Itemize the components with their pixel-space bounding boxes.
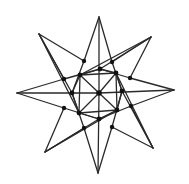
edge-T2-B1	[130, 78, 174, 90]
edge-T4-C	[98, 93, 99, 173]
edge-T6-B6	[17, 79, 64, 93]
edge-T0-B7	[84, 17, 99, 61]
edge-group	[17, 17, 174, 173]
outer-node-B2	[129, 104, 133, 108]
inner-node-A4	[97, 117, 102, 122]
edge-T0-B0	[99, 17, 112, 62]
inner-node-A6	[70, 91, 75, 96]
edge-T4-B4	[84, 128, 98, 173]
edge-T2-C	[99, 90, 174, 93]
outer-node-B3	[110, 125, 114, 129]
edge-A6-A7	[72, 75, 80, 93]
eight-pointed-star-graph	[0, 0, 189, 184]
star-diagram	[0, 0, 189, 184]
edge-A2-A3	[117, 91, 122, 110]
edge-T4-B3	[98, 127, 112, 173]
edge-A6-A5	[72, 93, 79, 113]
inner-node-A3	[115, 108, 120, 113]
edge-T7-A6	[39, 34, 72, 93]
outer-node-B5	[62, 106, 66, 110]
edge-T5-A4	[45, 119, 99, 152]
inner-node-A2	[120, 89, 125, 94]
outer-node-B1	[128, 76, 132, 80]
edge-T2-B2	[131, 90, 174, 106]
edge-A5-A7	[79, 75, 80, 113]
inner-node-A5	[77, 111, 82, 116]
outer-node-B0	[110, 60, 114, 64]
edge-A4-A5	[79, 113, 99, 119]
inner-node-A0	[98, 67, 103, 72]
edge-T6-B5	[17, 93, 64, 108]
edge-C-A1	[99, 73, 116, 93]
outer-node-B7	[82, 59, 86, 63]
edge-C-A7	[80, 75, 99, 93]
edge-A1-A3	[116, 73, 117, 110]
edge-C-A3	[99, 93, 117, 110]
inner-node-A1	[114, 71, 119, 76]
center-node-C	[96, 90, 102, 96]
edge-C-A5	[79, 93, 99, 113]
edge-A0-A1	[100, 69, 116, 73]
inner-node-A7	[78, 73, 83, 78]
outer-node-B4	[82, 126, 86, 130]
outer-node-B6	[62, 77, 66, 81]
